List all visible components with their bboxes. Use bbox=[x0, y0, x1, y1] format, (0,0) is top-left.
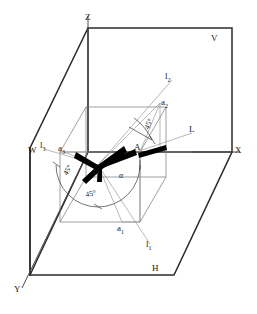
label-point-a2: a2 bbox=[161, 98, 168, 109]
label-v-plane: V bbox=[211, 34, 218, 43]
y-axis bbox=[22, 152, 88, 288]
label-line-L: L bbox=[189, 125, 195, 134]
label-angle-bottom-45: 45° bbox=[85, 189, 97, 198]
label-line-l3: l3 bbox=[40, 141, 46, 152]
label-x-axis: X bbox=[235, 146, 242, 155]
diagram-canvas: .hv{stroke:#2b2b2b;stroke-width:1.5;fill… bbox=[0, 0, 257, 314]
projection-diagram-svg: .hv{stroke:#2b2b2b;stroke-width:1.5;fill… bbox=[0, 0, 257, 314]
label-point-a3: a3 bbox=[58, 144, 65, 155]
label-h-plane: H bbox=[152, 264, 159, 273]
label-origin-O: O bbox=[93, 168, 100, 177]
label-line-l1: l1 bbox=[146, 240, 152, 251]
label-angle-alpha: α bbox=[119, 172, 123, 180]
label-z-axis: Z bbox=[85, 13, 91, 22]
label-line-l2: l2 bbox=[165, 72, 171, 83]
label-point-A: A bbox=[134, 143, 141, 152]
label-y-axis: Y bbox=[14, 285, 21, 294]
label-point-a1: a1 bbox=[117, 224, 124, 235]
label-w-plane: W bbox=[28, 146, 37, 155]
construction-lines bbox=[60, 103, 192, 222]
